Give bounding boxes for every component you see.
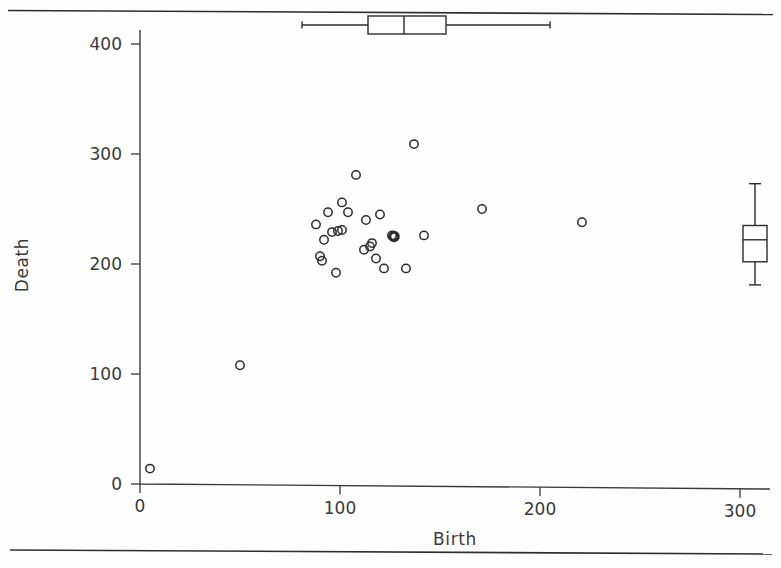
y-tick-label: 0 [111,474,122,494]
data-points-layer [146,140,586,473]
x-axis-label: Birth [433,529,477,549]
y-tick-label: 200 [90,254,122,274]
data-point [344,208,352,216]
birth-marginal-boxplot [302,16,550,34]
x-tick-label: 200 [524,499,556,519]
y-tick-label: 400 [90,34,122,54]
data-point [420,231,428,239]
interquartile-box [743,226,767,262]
data-point [578,218,586,226]
data-point [332,269,340,277]
data-point [320,236,328,244]
data-point [146,464,154,472]
scatter-plot-with-marginal-boxplots: 0100200300400 0100200300 Birth Death [0,0,781,568]
x-tick-label: 100 [324,498,356,518]
data-point [376,210,384,218]
x-axis-ticks: 0100200300 [135,484,757,521]
death-marginal-boxplot [743,184,767,285]
figure-canvas: 0100200300400 0100200300 Birth Death [0,0,781,568]
axes-group [140,30,770,489]
y-axis-label: Death [12,238,32,292]
data-point [362,216,370,224]
top-horizontal-rule [8,11,773,15]
marginal-boxplots-layer [302,16,767,285]
y-tick-label: 300 [90,144,122,164]
data-point [236,361,244,369]
data-point [324,208,332,216]
data-point [478,205,486,213]
y-axis-ticks: 0100200300400 [90,34,140,494]
data-point [372,254,380,262]
x-tick-label: 0 [135,496,146,516]
axis-lines [140,30,770,489]
data-point [312,220,320,228]
x-tick-label: 300 [724,501,756,521]
data-point [352,171,360,179]
data-point [390,232,398,240]
data-point [380,264,388,272]
data-point [402,264,410,272]
bottom-horizontal-rule [10,550,772,554]
interquartile-box [368,16,446,34]
data-point [410,140,418,148]
y-tick-label: 100 [90,364,122,384]
data-point [338,198,346,206]
